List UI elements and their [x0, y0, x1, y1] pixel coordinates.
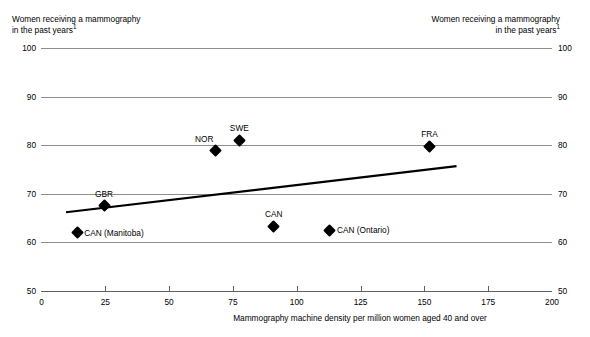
y-axis-caption-left: Women receiving a mammography in the pas…: [12, 14, 141, 35]
data-point-marker: [267, 220, 280, 233]
data-point-label: SWE: [230, 124, 249, 132]
y-tick-label-right-70: 70: [558, 190, 584, 198]
x-tick-150: [424, 286, 425, 291]
data-point-marker: [324, 224, 337, 237]
x-tick-label-25: 25: [85, 298, 125, 306]
data-point-marker: [423, 140, 436, 153]
x-tick-50: [169, 286, 170, 291]
data-point-label: NOR: [195, 135, 213, 143]
y-tick-label-left-70: 70: [10, 190, 36, 198]
gridline-80: [41, 145, 552, 146]
y-axis-caption-left-line2: in the past years: [12, 25, 73, 35]
scatter-chart-figure: Women receiving a mammography in the pas…: [0, 0, 590, 337]
x-tick-label-0: 0: [22, 298, 62, 306]
gridline-90: [41, 97, 552, 98]
x-axis-title-text: Mammography machine density per million …: [103, 313, 487, 323]
y-axis-caption-right-line2: in the past years: [496, 25, 557, 35]
data-point-label: CAN (Ontario): [337, 226, 390, 234]
x-tick-100: [297, 286, 298, 291]
x-tick-label-200: 200: [532, 298, 572, 306]
gridline-70: [41, 194, 552, 195]
y-axis-caption-right-footnote: 1: [556, 23, 560, 30]
y-tick-label-right-80: 80: [558, 141, 584, 149]
y-tick-label-left-60: 60: [10, 238, 36, 246]
data-point-label: CAN: [265, 210, 283, 218]
trend-line: [0, 0, 590, 337]
data-point-label: FRA: [421, 130, 438, 138]
x-tick-label-100: 100: [277, 298, 317, 306]
x-tick-label-75: 75: [213, 298, 253, 306]
y-axis-caption-right: Women receiving a mammography in the pas…: [431, 14, 560, 35]
y-tick-label-left-90: 90: [10, 93, 36, 101]
x-axis-line: [41, 291, 552, 292]
y-tick-label-left-50: 50: [10, 287, 36, 295]
data-point-marker: [71, 226, 84, 239]
y-tick-label-left-80: 80: [10, 141, 36, 149]
data-point-marker: [98, 200, 111, 213]
x-tick-label-125: 125: [341, 298, 381, 306]
x-axis-title: Mammography machine density per million …: [0, 313, 590, 323]
y-axis-caption-right-line1: Women receiving a mammography: [431, 14, 560, 24]
y-tick-label-left-100: 100: [10, 44, 36, 52]
y-tick-label-right-100: 100: [558, 44, 584, 52]
x-tick-175: [488, 286, 489, 291]
x-tick-25: [105, 286, 106, 291]
data-point-label: GBR: [95, 190, 113, 198]
x-tick-75: [233, 286, 234, 291]
x-tick-label-175: 175: [468, 298, 508, 306]
y-tick-label-right-50: 50: [558, 287, 584, 295]
y-tick-label-right-90: 90: [558, 93, 584, 101]
y-tick-label-right-60: 60: [558, 238, 584, 246]
x-tick-label-50: 50: [149, 298, 189, 306]
x-tick-label-150: 150: [404, 298, 444, 306]
gridline-100: [41, 48, 552, 49]
gridline-60: [41, 242, 552, 243]
data-point-label: CAN (Manitoba): [84, 229, 143, 237]
y-axis-caption-left-footnote: 1: [73, 23, 77, 30]
x-tick-125: [361, 286, 362, 291]
